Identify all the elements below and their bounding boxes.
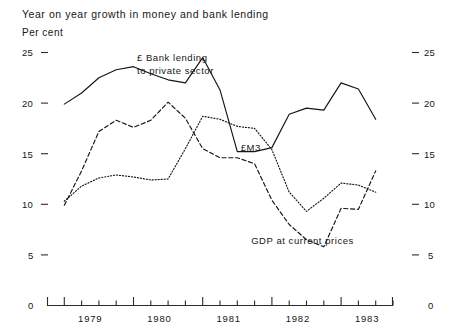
series-line-0: [64, 58, 375, 152]
y-tick-label-left-15: 15: [22, 149, 33, 160]
series-annotation-3: GDP at current prices: [251, 235, 354, 246]
y-tick-right-0: 25: [412, 47, 435, 58]
y-tick-left-5: 0: [28, 300, 34, 311]
y-tick-right-3: 10: [412, 199, 435, 210]
y-tick-left-3: 10: [22, 199, 48, 210]
x-tick-labels: 19791980198119821983: [78, 313, 379, 324]
y-tick-label-left-10: 10: [22, 199, 33, 210]
plot-lines: [64, 58, 375, 247]
x-tick-label-1979: 1979: [78, 313, 102, 324]
series-line-2: [64, 116, 375, 211]
series-annotation-1: to private sector: [137, 65, 214, 76]
y-tick-label-left-20: 20: [22, 98, 33, 109]
y-tick-label-right-25: 25: [424, 47, 435, 58]
series-annotations: £ Bank lendingto private sector£M3GDP at…: [137, 52, 354, 246]
x-tick-label-1982: 1982: [286, 313, 310, 324]
series-annotation-0: £ Bank lending: [137, 52, 208, 63]
y-tick-label-left-25: 25: [22, 47, 33, 58]
y-tick-left-1: 20: [22, 98, 48, 109]
series-annotation-2: £M3: [241, 142, 261, 153]
y-axis-left: 25 20 15 10 5 0: [22, 47, 48, 311]
y-tick-right-2: 15: [412, 149, 435, 160]
y-tick-label-right-20: 20: [424, 98, 435, 109]
x-tick-label-1983: 1983: [355, 313, 379, 324]
y-tick-label-left-0: 0: [28, 300, 34, 311]
y-tick-right-5: 0: [428, 300, 434, 311]
y-tick-label-right-0: 0: [428, 300, 434, 311]
y-tick-right-1: 20: [412, 98, 435, 109]
x-tick-label-1981: 1981: [216, 313, 240, 324]
chart-figure: Year on year growth in money and bank le…: [0, 0, 463, 328]
y-tick-left-0: 25: [22, 47, 48, 58]
y-tick-label-right-10: 10: [424, 199, 435, 210]
x-axis: [47, 297, 393, 306]
y-tick-left-2: 15: [22, 149, 48, 160]
chart-title: Year on year growth in money and bank le…: [22, 8, 269, 20]
y-tick-right-4: 5: [412, 250, 434, 261]
y-tick-label-left-5: 5: [28, 250, 34, 261]
y-tick-left-4: 5: [28, 250, 48, 261]
y-tick-label-right-15: 15: [424, 149, 435, 160]
chart-unit-label: Per cent: [22, 27, 63, 38]
x-tick-label-1980: 1980: [147, 313, 171, 324]
series-line-1: [64, 102, 375, 247]
y-axis-right: 25 20 15 10 5 0: [412, 47, 435, 311]
y-tick-label-right-5: 5: [428, 250, 434, 261]
x-tick-marks: [64, 297, 393, 306]
